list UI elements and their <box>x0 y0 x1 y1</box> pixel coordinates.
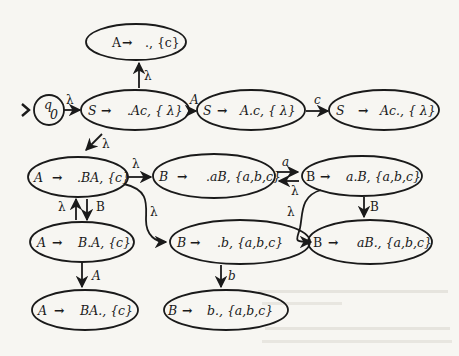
node-lhs: S <box>203 103 212 118</box>
production-arrow-icon: → <box>358 103 369 118</box>
node-a-b-a[interactable]: A → B.A, {c} <box>30 222 134 262</box>
edge-label: λ <box>150 205 158 219</box>
node-rhs: Ac., { λ} <box>379 103 436 118</box>
node-rhs: .Ac, { λ} <box>127 103 183 118</box>
production-arrow-icon: → <box>217 103 228 118</box>
node-b-b-done[interactable]: B → b., {a,b,c} <box>164 290 288 330</box>
edge-label: λ <box>66 93 74 107</box>
production-arrow-icon: → <box>54 303 65 318</box>
node-lhs: B <box>167 303 177 318</box>
edge-label: λ <box>144 69 152 83</box>
node-s-mid[interactable]: S → A.c, { λ} <box>197 90 305 130</box>
edge-label: B <box>370 200 379 214</box>
node-rhs: ., {c} <box>145 35 180 50</box>
node-b-b[interactable]: B → .b, {a,b,c} <box>170 220 310 264</box>
production-arrow-icon: → <box>182 303 193 318</box>
production-arrow-icon: → <box>101 103 112 118</box>
edge-label: A <box>91 269 101 283</box>
node-lhs: S <box>88 103 97 118</box>
node-lhs: A <box>36 235 46 250</box>
production-arrow-icon: → <box>122 35 133 50</box>
automaton-diagram: q 0 A → ., {c} S → .Ac, { λ} S → A.c, { … <box>0 0 459 356</box>
node-lhs: A <box>37 303 47 318</box>
start-state-q0[interactable]: q 0 <box>22 95 64 125</box>
production-arrow-icon: → <box>177 169 188 184</box>
production-arrow-icon: → <box>320 169 331 184</box>
node-lhs: B <box>158 169 168 184</box>
diagram-canvas: q 0 A → ., {c} S → .Ac, { λ} S → A.c, { … <box>0 0 459 356</box>
edge-label: a <box>282 155 289 169</box>
node-lhs: S <box>336 103 345 118</box>
edge-label: A <box>189 93 199 107</box>
node-a-ba[interactable]: A → .BA, {c} <box>28 157 130 197</box>
production-arrow-icon: → <box>190 235 201 250</box>
node-b-ab-done[interactable]: B → aB., {a,b,c} <box>308 220 432 264</box>
q0-subscript: 0 <box>50 107 58 122</box>
node-rhs: B.A, {c} <box>77 235 131 250</box>
page-bleed-through <box>258 290 452 343</box>
edge-label: λ <box>58 200 66 214</box>
edge-label: c <box>314 93 321 107</box>
edge-label: λ <box>287 205 295 219</box>
node-a-ba-done[interactable]: A → BA., {c} <box>32 290 138 330</box>
start-marker-icon <box>22 104 29 116</box>
edge-s-start-to-a-ba[interactable] <box>86 134 102 150</box>
node-lhs: A <box>111 35 122 50</box>
node-s-end[interactable]: S → Ac., { λ} <box>329 90 439 130</box>
production-arrow-icon: → <box>52 235 63 250</box>
node-rhs: a.B, {a,b,c} <box>346 169 421 184</box>
node-rhs: b., {a,b,c} <box>207 303 273 318</box>
edge-label: B <box>96 200 105 214</box>
node-s-start[interactable]: S → .Ac, { λ} <box>81 90 189 130</box>
edge-label: b <box>228 269 236 283</box>
edge-label: λ <box>102 137 110 151</box>
production-arrow-icon: → <box>328 235 339 250</box>
node-lhs: A <box>33 170 43 185</box>
node-lhs: B <box>176 235 186 250</box>
edge-label: λ <box>132 157 140 171</box>
node-lhs: B <box>306 169 315 184</box>
node-rhs: aB., {a,b,c} <box>357 235 432 250</box>
node-rhs: BA., {c} <box>79 303 133 318</box>
node-rhs: .b, {a,b,c} <box>217 235 283 250</box>
edge-label: λ <box>291 184 299 198</box>
node-lhs: B <box>313 235 322 250</box>
node-rhs: .BA, {c} <box>77 170 130 185</box>
node-rhs: .aB, {a,b,c} <box>206 169 281 184</box>
production-arrow-icon: → <box>52 170 63 185</box>
node-rhs: A.c, { λ} <box>239 103 296 118</box>
node-b-ab[interactable]: B → .aB, {a,b,c} <box>153 154 281 198</box>
node-a-empty[interactable]: A → ., {c} <box>86 24 186 60</box>
